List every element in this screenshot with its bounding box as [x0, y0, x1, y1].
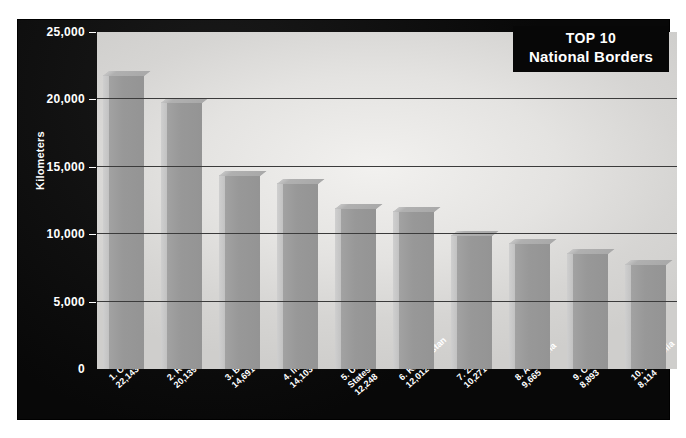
y-tick-label-5000: 5,000	[53, 295, 85, 309]
y-tick-mark-25000	[89, 32, 96, 33]
y-tick-label-15000: 15,000	[46, 160, 85, 174]
chart-title-line1: TOP 10	[513, 30, 669, 46]
bar-top-face	[277, 179, 324, 184]
bar-top-face	[335, 204, 382, 209]
y-tick-mark-20000	[89, 99, 96, 100]
bar-top-face	[219, 171, 266, 176]
bar-front-face	[283, 183, 318, 369]
gridline-20000	[97, 98, 677, 99]
bar-front-face	[399, 211, 434, 369]
bar	[509, 239, 550, 369]
bar	[335, 204, 376, 369]
y-tick-label-0: 0	[78, 362, 85, 376]
y-tick-label-25000: 25,000	[46, 25, 85, 39]
bar-top-face	[567, 249, 614, 254]
y-tick-mark-10000	[89, 234, 96, 235]
y-tick-mark-15000	[89, 167, 96, 168]
bar-front-face	[167, 102, 202, 369]
plot-area	[97, 32, 677, 369]
bar-top-face	[393, 207, 440, 212]
y-tick-label-10000: 10,000	[46, 227, 85, 241]
bar-front-face	[457, 235, 492, 369]
y-axis-title: Kilometers	[34, 131, 46, 190]
chart-title-block: TOP 10 National Borders	[513, 26, 669, 72]
bar-front-face	[341, 208, 376, 369]
bar-top-face	[103, 71, 150, 76]
bar-front-face	[109, 75, 144, 369]
bar-front-face	[573, 253, 608, 369]
chart-title-line2: National Borders	[513, 48, 669, 65]
y-tick-mark-5000	[89, 302, 96, 303]
y-tick-label-20000: 20,000	[46, 92, 85, 106]
gridline-10000	[97, 233, 677, 234]
bar-series	[97, 32, 677, 369]
gridline-5000	[97, 301, 677, 302]
chart-frame: Kilometers 05,00010,00015,00020,00025,00…	[18, 20, 669, 419]
bar-front-face	[515, 243, 550, 369]
chart-figure: Kilometers 05,00010,00015,00020,00025,00…	[0, 0, 686, 438]
bar	[567, 249, 608, 369]
bar	[393, 207, 434, 369]
gridline-15000	[97, 166, 677, 167]
bar	[625, 260, 666, 369]
bar	[277, 179, 318, 369]
bar-front-face	[225, 175, 260, 369]
x-axis-labels: 1. China22,1432. Russia20,1393. Brazil14…	[97, 369, 677, 419]
bar-front-face	[631, 264, 666, 369]
bar-top-face	[509, 239, 556, 244]
bar-top-face	[625, 260, 672, 265]
bar	[103, 71, 144, 369]
bar	[219, 171, 260, 369]
